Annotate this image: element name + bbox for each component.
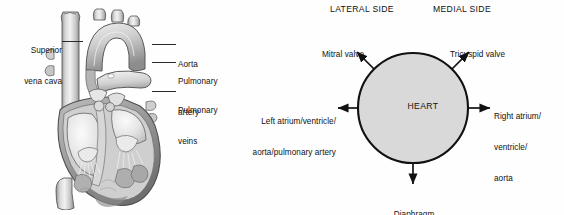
label-left-structures: Left atrium/ventricle/ aorta/pulmonary a… — [246, 97, 336, 179]
label-superior-vena-cava-line2: vena cava — [4, 77, 62, 87]
label-right-structures-line1: Right atrium/ — [494, 112, 564, 122]
label-right-structures-line2: ventricle/ — [494, 143, 564, 153]
label-left-structures-line1: Left atrium/ventricle/ — [246, 117, 336, 127]
heart-orientation-schematic-panel: LATERAL SIDE MEDIAL SIDE HEART — [282, 0, 564, 215]
leader-line-pulmonary-artery — [152, 62, 176, 63]
label-right-structures-line3: aorta — [494, 174, 564, 184]
leader-line-aorta — [152, 44, 176, 45]
leader-line-pulmonary-veins — [152, 91, 176, 92]
leader-line-superior-vena-cava — [62, 41, 83, 42]
label-right-structures: Right atrium/ ventricle/ aorta — [494, 92, 564, 204]
figure-root: Superior vena cava Aorta Pulmonary arter… — [0, 0, 564, 215]
label-diaphragm: Diaphragm — [378, 190, 450, 215]
label-mitral-valve-line1: Mitral valve — [322, 50, 402, 60]
heart-anatomy-panel: Superior vena cava Aorta Pulmonary arter… — [0, 0, 282, 215]
label-tricuspid-valve-line1: Tricuspid valve — [450, 50, 546, 60]
label-superior-vena-cava: Superior vena cava — [4, 26, 62, 108]
label-superior-vena-cava-line1: Superior — [4, 46, 62, 56]
label-tricuspid-valve: Tricuspid valve — [450, 30, 546, 81]
label-left-structures-line2: aorta/pulmonary artery — [246, 148, 336, 158]
label-diaphragm-line1: Diaphragm — [378, 210, 450, 215]
label-mitral-valve: Mitral valve — [322, 30, 402, 81]
